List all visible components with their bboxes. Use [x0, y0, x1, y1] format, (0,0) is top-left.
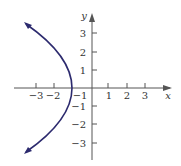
x-axis: −3 −2 −1 1 2 3 x: [14, 83, 172, 101]
y-tick-label: 1: [80, 65, 86, 76]
x-tick-label: 1: [106, 90, 112, 101]
y-tick-label: −1: [71, 101, 86, 112]
y-axis: 3 2 1 −1 −2 −3 y: [71, 10, 97, 160]
y-tick-label: −2: [71, 119, 86, 130]
y-axis-label: y: [80, 10, 87, 21]
y-axis-arrow-icon: [89, 13, 95, 22]
y-tick-label: 2: [80, 47, 86, 58]
x-tick-label: −3: [29, 90, 44, 101]
y-tick-label: 3: [80, 28, 86, 39]
x-tick-label: −1: [73, 90, 88, 101]
x-axis-label: x: [165, 90, 171, 101]
x-tick-label: −2: [46, 90, 61, 101]
parabola-graph: −3 −2 −1 1 2 3 x 3 2 1 −1 −2 −3 y: [0, 0, 181, 166]
y-tick-label: −3: [71, 138, 86, 149]
x-tick-label: 3: [142, 90, 148, 101]
x-tick-label: 2: [124, 90, 130, 101]
